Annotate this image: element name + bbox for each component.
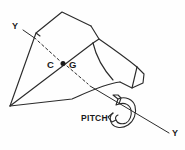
wing-root-chine xyxy=(10,43,93,106)
axis-segment-hidden-upper xyxy=(38,41,60,61)
aircraft-outline xyxy=(10,12,144,106)
axis-segment-upper-solid xyxy=(23,30,36,39)
nose-lower-chamfer xyxy=(132,67,137,88)
label-cg-c: C xyxy=(47,60,54,70)
right-wing-upper-edge xyxy=(99,39,137,67)
label-y-axis-top: Y xyxy=(12,22,18,31)
label-y-axis-bottom: Y xyxy=(172,129,178,138)
pitch-rotation-arrow xyxy=(108,95,136,128)
label-pitch: PITCH xyxy=(81,114,108,123)
wing-break-line xyxy=(93,43,113,80)
nose-block xyxy=(120,67,144,88)
center-of-gravity-marker xyxy=(61,61,66,66)
diagram-canvas xyxy=(0,0,185,150)
canopy-panel-line xyxy=(36,33,40,36)
pitch-axis-diagram: Y C G PITCH Y xyxy=(0,0,185,150)
label-cg-g: G xyxy=(69,60,76,70)
fuselage-upper-spine xyxy=(91,26,99,43)
axis-segment-lower-solid xyxy=(90,86,169,133)
pitch-arrow-tail-tab xyxy=(108,113,116,122)
